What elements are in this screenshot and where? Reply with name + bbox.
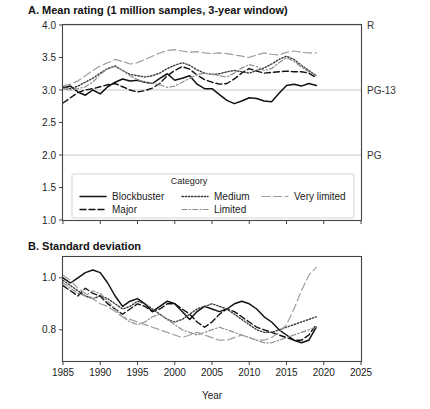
figure-container: A. Mean rating (1 million samples, 3-yea…	[0, 0, 430, 409]
legend-label-limited: Limited	[214, 204, 246, 215]
reference-label: R	[367, 20, 374, 31]
panel-a-reference-labels: RPG-13PG	[367, 20, 396, 161]
chart-svg: A. Mean rating (1 million samples, 3-yea…	[0, 0, 430, 409]
y-tick-label: 0.8	[42, 324, 56, 335]
y-tick-label: 1.0	[42, 215, 56, 226]
series-line-medium	[63, 280, 316, 332]
panel-a-gridlines	[63, 25, 361, 155]
legend-label-blockbuster: Blockbuster	[112, 191, 165, 202]
series-line-very-limited	[63, 50, 316, 86]
panel-a-series-group	[63, 50, 316, 104]
y-tick-label: 2.5	[42, 117, 56, 128]
legend-label-very-limited: Very limited	[294, 191, 346, 202]
panel-b-title: B. Standard deviation	[28, 240, 141, 252]
x-tick-label: 2010	[238, 367, 261, 378]
series-line-limited	[63, 283, 316, 343]
reference-label: PG	[367, 150, 382, 161]
panel-b-series-group	[63, 267, 316, 342]
panel-a-title: A. Mean rating (1 million samples, 3-yea…	[28, 4, 288, 16]
panel-a: 1.01.52.02.53.03.54.0 RPG-13PG CategoryB…	[42, 20, 396, 226]
x-tick-label: 2015	[275, 367, 298, 378]
x-tick-label: 2020	[313, 367, 336, 378]
y-tick-label: 2.0	[42, 150, 56, 161]
panel-b-x-axis: 198519901995200020052010201520202025	[52, 361, 373, 378]
y-tick-label: 3.5	[42, 52, 56, 63]
x-tick-label: 1985	[52, 367, 75, 378]
y-tick-label: 3.0	[42, 85, 56, 96]
panel-b-y-axis: 0.81.0	[42, 272, 63, 335]
y-tick-label: 1.0	[42, 272, 56, 283]
legend-label-medium: Medium	[214, 191, 250, 202]
y-tick-label: 1.5	[42, 182, 56, 193]
x-tick-label: 1995	[126, 367, 149, 378]
y-tick-label: 4.0	[42, 20, 56, 31]
panel-b: 0.81.0 198519901995200020052010201520202…	[42, 257, 372, 402]
legend-title: Category	[171, 176, 208, 186]
x-tick-label: 2005	[201, 367, 224, 378]
reference-label: PG-13	[367, 85, 396, 96]
chart-legend: CategoryBlockbusterMajorMediumLimitedVer…	[72, 174, 354, 218]
series-line-limited	[63, 58, 316, 91]
panel-a-y-axis: 1.01.52.02.53.03.54.0	[42, 20, 63, 226]
x-tick-label: 1990	[89, 367, 112, 378]
legend-label-major: Major	[112, 204, 138, 215]
x-axis-title: Year	[202, 390, 223, 401]
x-tick-label: 2000	[164, 367, 187, 378]
x-tick-label: 2025	[350, 367, 373, 378]
